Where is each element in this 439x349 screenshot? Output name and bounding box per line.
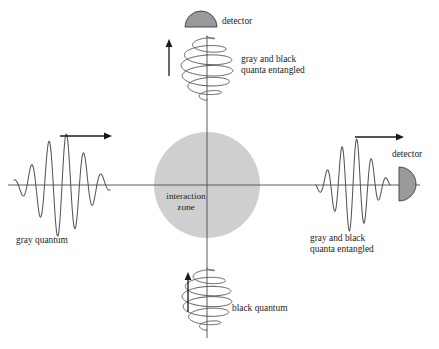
arrow-head-icon (185, 272, 192, 280)
arrow-up-direction-top (166, 39, 173, 76)
diagram-canvas: detector detector gray and black quanta … (0, 0, 439, 349)
label-entangled-right-line2: quanta entangled (310, 244, 374, 254)
physics-diagram: detector detector gray and black quanta … (0, 0, 439, 349)
label-interaction-zone-line1: interaction (166, 191, 206, 201)
arrow-head-icon (104, 133, 112, 140)
label-gray-quantum: gray quantum (16, 235, 69, 245)
label-detector-right: detector (392, 149, 423, 159)
detector-right-icon[interactable] (399, 167, 416, 201)
label-entangled-right-line1: gray and black (310, 233, 365, 243)
arrow-right-direction (355, 134, 404, 141)
label-black-quantum: black quantum (232, 303, 288, 313)
label-entangled-top-line2: quanta entangled (241, 65, 305, 75)
label-interaction-zone-line2: zone (177, 202, 194, 212)
arrow-head-icon (396, 134, 404, 141)
arrow-head-icon (166, 39, 173, 47)
label-entangled-top-line1: gray and black (241, 54, 296, 64)
detector-top-icon[interactable] (185, 11, 217, 27)
label-detector-top: detector (222, 16, 253, 26)
